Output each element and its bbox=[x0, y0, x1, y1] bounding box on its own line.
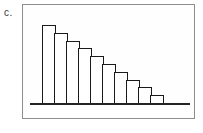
chart-frame bbox=[22, 4, 195, 119]
figure-label: c. bbox=[4, 8, 13, 18]
histogram-bars bbox=[42, 25, 164, 103]
x-axis-line bbox=[30, 103, 190, 105]
figure-panel-c: c. bbox=[0, 0, 203, 133]
